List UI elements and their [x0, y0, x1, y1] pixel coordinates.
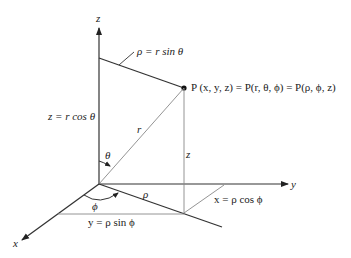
rho-equation-label: ρ = r sin θ — [136, 45, 184, 57]
point-p-label: P (x, y, z) = P(r, θ, ϕ) = P(ρ, ϕ, z) — [191, 81, 336, 94]
x-axis-label: x — [12, 237, 18, 249]
r-line — [99, 88, 184, 184]
rho-top-line — [99, 58, 184, 88]
x-axis — [22, 184, 99, 240]
phi-arc — [84, 193, 118, 200]
theta-label: θ — [105, 149, 111, 161]
spherical-coordinates-diagram: z y x ρ = r sin θ P (x, y, z) = P(r, θ, … — [0, 0, 351, 258]
y-equation-label: y = ρ sin ϕ — [88, 216, 135, 228]
z-axis-label: z — [95, 12, 101, 24]
x-equation-label: x = ρ cos ϕ — [214, 193, 263, 205]
rho-label: ρ — [142, 188, 148, 200]
phi-label: ϕ — [92, 200, 98, 212]
y-axis-label: y — [290, 178, 296, 190]
theta-arc — [99, 161, 110, 166]
z-equation-label: z = r cos θ — [47, 110, 96, 122]
r-label: r — [137, 123, 142, 135]
z-segment-label: z — [185, 148, 191, 160]
rho-leader-line — [119, 52, 134, 65]
